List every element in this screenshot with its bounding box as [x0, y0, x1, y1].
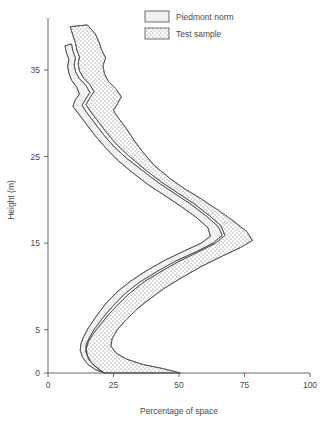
y-tick-label: 15 — [31, 238, 41, 248]
y-tick-label: 25 — [31, 152, 41, 162]
x-axis-ticks: 0255075100 — [46, 373, 318, 390]
legend-swatch-test-sample — [145, 28, 169, 39]
legend-swatch-piedmont-norm — [145, 11, 169, 22]
y-tick-label: 35 — [31, 65, 41, 75]
y-axis-ticks: 05152535 — [31, 65, 48, 378]
x-tick-label: 25 — [109, 380, 119, 390]
percentage-of-space-height-profile-chart: 0255075100 05152535 Percentage of space … — [0, 0, 324, 426]
band-piedmont-norm — [65, 44, 222, 373]
x-tick-label: 100 — [303, 380, 317, 390]
y-tick-label: 0 — [35, 368, 40, 378]
x-axis-title: Percentage of space — [140, 406, 218, 416]
x-tick-label: 75 — [240, 380, 250, 390]
x-tick-label: 50 — [174, 380, 184, 390]
y-tick-label: 5 — [35, 325, 40, 335]
legend-label-piedmont-norm: Piedmont norm — [176, 12, 234, 22]
data-bands-group — [65, 25, 252, 373]
y-axis-title: Height (m) — [6, 180, 16, 220]
chart-legend: Piedmont norm Test sample — [145, 11, 234, 39]
x-tick-label: 0 — [46, 380, 51, 390]
legend-label-test-sample: Test sample — [176, 29, 222, 39]
chart-container: 0255075100 05152535 Percentage of space … — [0, 0, 324, 426]
